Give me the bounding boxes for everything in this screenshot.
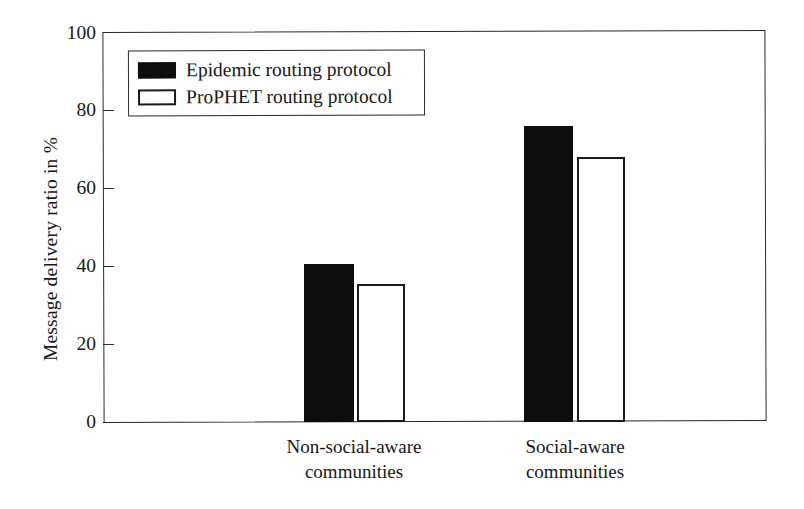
bar-epidemic-non-social-aware — [304, 264, 354, 422]
bar-prophet-social-aware — [577, 157, 625, 422]
x-category-line-2: communities — [234, 459, 474, 484]
legend-swatch-hollow-icon — [138, 89, 176, 105]
x-category-line-2: communities — [455, 459, 695, 484]
chart-legend: Epidemic routing protocol ProPHET routin… — [128, 50, 425, 117]
x-axis-category-non-social-aware: Non-social-aware communities — [234, 434, 474, 484]
legend-label-epidemic: Epidemic routing protocol — [186, 58, 392, 81]
x-category-line-1: Non-social-aware — [234, 434, 474, 459]
legend-item-prophet: ProPHET routing protocol — [138, 83, 415, 111]
x-category-line-1: Social-aware — [455, 434, 695, 459]
x-axis-category-social-aware: Social-aware communities — [455, 434, 695, 484]
bar-prophet-non-social-aware — [357, 284, 405, 422]
bar-epidemic-social-aware — [524, 126, 573, 422]
legend-label-prophet: ProPHET routing protocol — [186, 85, 393, 108]
legend-item-epidemic: Epidemic routing protocol — [138, 56, 415, 84]
legend-swatch-filled-icon — [138, 62, 176, 78]
bar-chart-figure: Message delivery ratio in % 0 20 40 60 8… — [0, 0, 804, 509]
